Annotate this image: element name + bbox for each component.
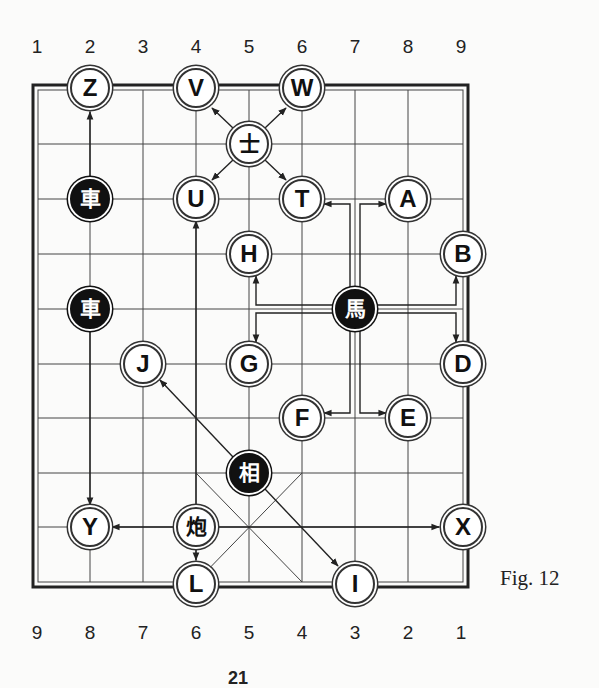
target-label: H xyxy=(240,242,257,266)
target-f[interactable]: F xyxy=(282,398,322,438)
target-label: G xyxy=(240,352,259,376)
advisor-piece[interactable]: 士 xyxy=(229,124,269,164)
file-label: 6 xyxy=(191,622,202,644)
file-label: 7 xyxy=(138,622,149,644)
black-elephant-piece[interactable]: 相 xyxy=(229,453,269,493)
cannon-piece[interactable]: 炮 xyxy=(176,507,216,547)
target-z[interactable]: Z xyxy=(70,68,110,108)
target-label: J xyxy=(136,352,149,376)
target-label: L xyxy=(189,572,204,596)
target-label: W xyxy=(291,76,314,100)
elephant-glyph: 相 xyxy=(239,463,260,484)
target-label: X xyxy=(455,515,471,539)
target-label: D xyxy=(454,352,471,376)
cannon-glyph: 炮 xyxy=(186,517,207,538)
target-d[interactable]: D xyxy=(443,344,483,384)
chariot-glyph: 車 xyxy=(80,189,101,210)
target-label: T xyxy=(295,187,310,211)
horse-glyph: 馬 xyxy=(345,299,366,320)
target-label: E xyxy=(400,406,416,430)
figure-caption: Fig. 12 xyxy=(500,566,560,591)
file-label: 9 xyxy=(32,622,43,644)
target-v[interactable]: V xyxy=(176,68,216,108)
page-number: 21 xyxy=(228,668,248,688)
target-y[interactable]: Y xyxy=(70,507,110,547)
target-w[interactable]: W xyxy=(282,68,322,108)
target-label: A xyxy=(399,187,416,211)
black-horse-piece[interactable]: 馬 xyxy=(335,289,375,329)
target-j[interactable]: J xyxy=(123,344,163,384)
target-a[interactable]: A xyxy=(388,179,428,219)
target-b[interactable]: B xyxy=(443,234,483,274)
file-label: 2 xyxy=(403,622,414,644)
chariot-glyph: 車 xyxy=(80,299,101,320)
target-label: Z xyxy=(83,76,98,100)
target-label: V xyxy=(188,76,204,100)
target-i[interactable]: I xyxy=(335,564,375,604)
target-t[interactable]: T xyxy=(282,179,322,219)
file-label: 4 xyxy=(297,622,308,644)
advisor-glyph: 士 xyxy=(239,134,260,155)
file-label: 3 xyxy=(350,622,361,644)
target-u[interactable]: U xyxy=(176,179,216,219)
target-x[interactable]: X xyxy=(443,507,483,547)
file-label: 1 xyxy=(456,622,467,644)
file-label: 8 xyxy=(85,622,96,644)
target-label: Y xyxy=(82,515,98,539)
target-h[interactable]: H xyxy=(229,234,269,274)
target-label: I xyxy=(352,572,359,596)
black-chariot-piece[interactable]: 車 xyxy=(70,289,110,329)
target-label: B xyxy=(454,242,471,266)
target-e[interactable]: E xyxy=(388,398,428,438)
target-l[interactable]: L xyxy=(176,564,216,604)
black-chariot-piece[interactable]: 車 xyxy=(70,179,110,219)
target-label: U xyxy=(187,187,204,211)
target-label: F xyxy=(295,406,310,430)
file-label: 5 xyxy=(244,622,255,644)
target-g[interactable]: G xyxy=(229,344,269,384)
